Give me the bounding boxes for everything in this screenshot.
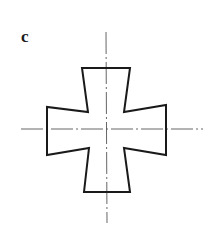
vertical-centerline <box>106 32 107 223</box>
cross-diagram <box>0 0 209 226</box>
